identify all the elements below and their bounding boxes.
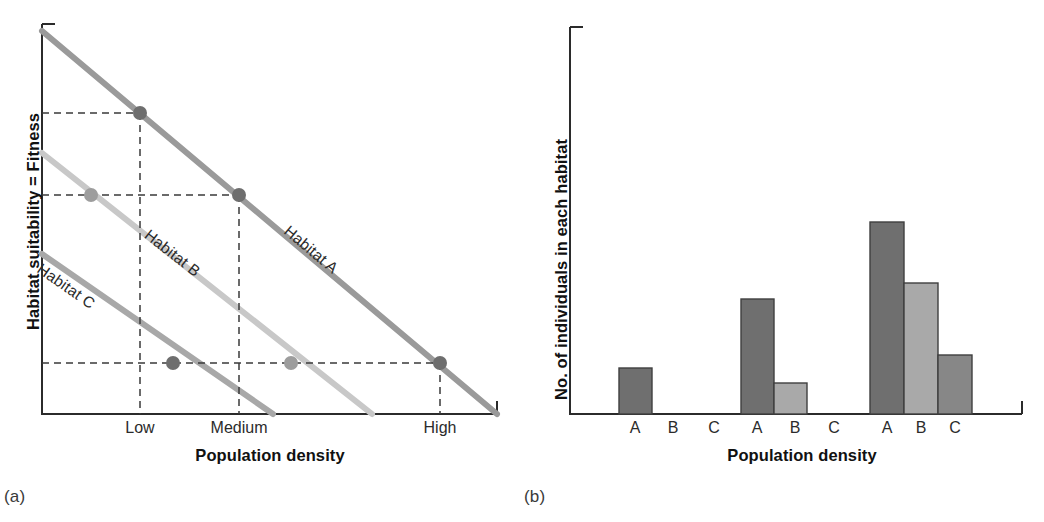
habitat-a-line <box>42 31 497 414</box>
xtick-group3-c: C <box>935 419 975 437</box>
bar-group2-habitat-b <box>774 383 807 414</box>
panel-b-x-axis-title: Population density <box>662 446 942 465</box>
xtick-group1-a: A <box>615 419 655 437</box>
xtick-group2-c: C <box>814 419 854 437</box>
xtick-high: High <box>400 419 480 437</box>
panel-a-caption: (a) <box>4 487 25 507</box>
marker-habitat-a-low <box>133 106 147 120</box>
panel-a: Habitat A Habitat B Habitat C Low Medium… <box>0 0 522 522</box>
marker-habitat-b-low <box>84 188 98 202</box>
bar-group3-habitat-b <box>904 283 938 414</box>
marker-habitat-b-high <box>284 356 298 370</box>
xtick-group2-b: B <box>775 419 815 437</box>
marker-habitat-a-high <box>433 356 447 370</box>
panel-a-y-axis-title: Habitat suitability = Fitness <box>24 113 43 330</box>
xtick-low: Low <box>100 419 180 437</box>
panel-b-plot <box>522 0 1044 470</box>
xtick-medium: Medium <box>194 419 284 437</box>
figure-container: Habitat A Habitat B Habitat C Low Medium… <box>0 0 1044 522</box>
bar-group2-habitat-a <box>741 299 774 414</box>
xtick-group1-b: B <box>653 419 693 437</box>
panel-b-caption: (b) <box>524 487 545 507</box>
panel-b-y-axis-title: No. of individuals in each habitat <box>552 139 571 400</box>
bar-group1-habitat-a <box>619 368 652 414</box>
xtick-group2-a: A <box>737 419 777 437</box>
marker-habitat-a-medium <box>232 188 246 202</box>
panel-a-plot <box>0 0 522 470</box>
dashed-guides <box>42 113 440 414</box>
xtick-group1-c: C <box>694 419 734 437</box>
bar-group3-habitat-c <box>938 355 972 414</box>
bar-group3-habitat-a <box>870 222 904 414</box>
marker-habitat-c-mid <box>166 356 180 370</box>
panel-b: A B C A B C A B C Population density No.… <box>522 0 1044 522</box>
panel-a-x-axis-title: Population density <box>130 446 410 465</box>
